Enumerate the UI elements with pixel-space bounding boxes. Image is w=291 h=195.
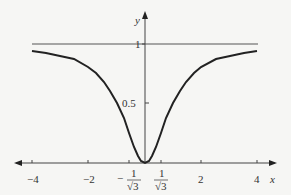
tick-label-y-1: 1 bbox=[135, 38, 141, 50]
x-axis-right-arrow-icon bbox=[269, 160, 277, 166]
tick-label-neg4: −4 bbox=[27, 173, 39, 185]
svg-text:√3: √3 bbox=[155, 180, 167, 192]
chart: −4 −2 2 4 x y 1 0.5 − 1 √3 1 √3 bbox=[0, 0, 291, 195]
svg-text:−: − bbox=[117, 172, 123, 184]
svg-text:1: 1 bbox=[131, 167, 137, 179]
svg-text:√3: √3 bbox=[127, 180, 139, 192]
tick-label-neg2: −2 bbox=[83, 173, 95, 185]
svg-text:1: 1 bbox=[159, 167, 165, 179]
y-axis-label: y bbox=[134, 14, 140, 26]
x-axis-left-arrow-icon bbox=[14, 160, 22, 166]
y-axis-arrow-icon bbox=[142, 11, 148, 19]
tick-label-4: 4 bbox=[254, 173, 260, 185]
tick-label-2: 2 bbox=[198, 173, 204, 185]
tick-label-inv-sqrt3: 1 √3 bbox=[154, 167, 168, 192]
x-axis-label: x bbox=[269, 173, 275, 185]
tick-label-y-half: 0.5 bbox=[122, 97, 136, 109]
tick-label-neg-inv-sqrt3: − 1 √3 bbox=[117, 167, 141, 192]
